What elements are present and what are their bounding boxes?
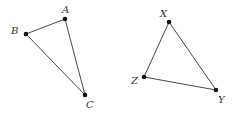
vertex-z [142,75,147,80]
edge-ca [65,19,85,95]
vertex-c [83,93,88,98]
vertex-x [167,20,172,25]
edge-yz [144,77,216,90]
vertex-y [214,88,219,93]
label-a: A [61,4,69,15]
vertex-b [24,32,29,37]
vertex-a [63,17,68,22]
label-z: Z [130,75,139,86]
label-x: X [159,8,168,19]
diagram-canvas: A B C X Y Z [0,0,238,113]
label-b: B [10,25,18,36]
edge-ab [26,19,65,34]
edge-xy [169,22,216,90]
triangle-abc: A B C [10,4,94,110]
label-c: C [86,99,94,110]
edge-bc [26,34,85,95]
triangle-xyz: X Y Z [130,8,226,105]
diagram-svg: A B C X Y Z [0,0,238,113]
label-y: Y [218,94,226,105]
edge-zx [144,22,169,77]
